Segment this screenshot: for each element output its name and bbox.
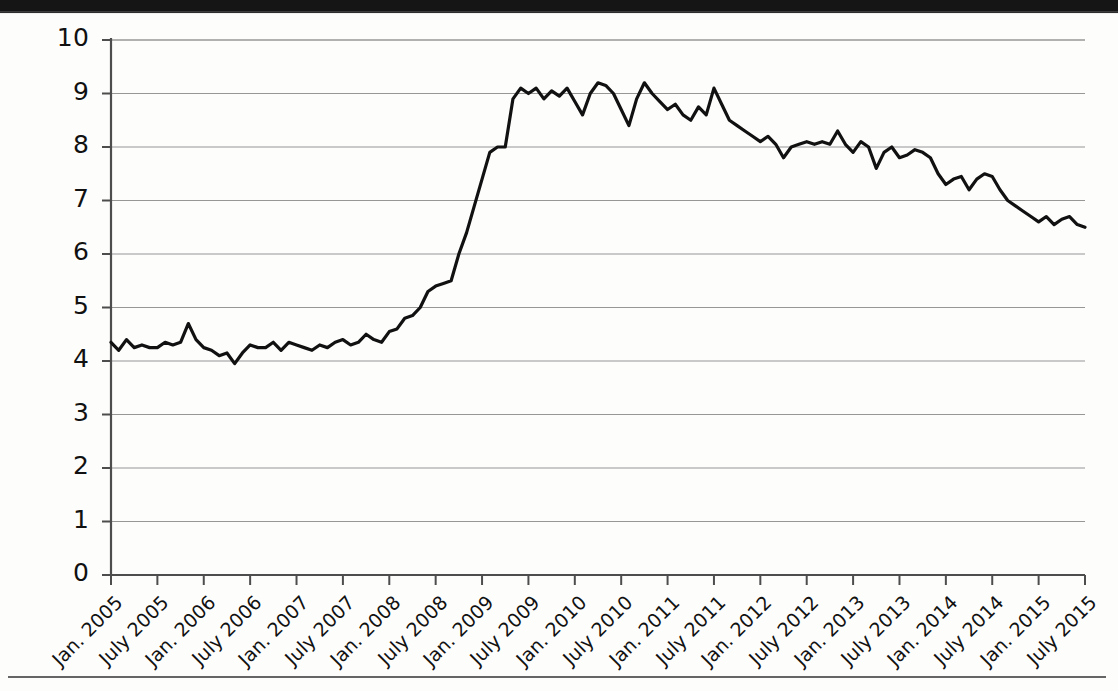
y-tick-label: 8 xyxy=(49,130,89,159)
data-line-unemployment-rate xyxy=(111,83,1085,364)
line-chart: 012345678910 Jan. 2005July 2005Jan. 2006… xyxy=(0,0,1118,691)
y-tick-label: 7 xyxy=(49,184,89,213)
y-tick-label: 10 xyxy=(49,23,89,52)
y-tick-label: 9 xyxy=(49,77,89,106)
y-tick-label: 0 xyxy=(49,558,89,587)
y-tick-label: 6 xyxy=(49,237,89,266)
y-tick-label: 1 xyxy=(49,505,89,534)
y-tick-label: 3 xyxy=(49,398,89,427)
gridline-group xyxy=(111,40,1085,522)
y-tick-label: 2 xyxy=(49,451,89,480)
page-footer-rule xyxy=(8,676,1106,678)
axis-group xyxy=(111,38,1085,575)
y-tick-label: 4 xyxy=(49,344,89,373)
y-tick-label: 5 xyxy=(49,291,89,320)
y-tick-group xyxy=(102,40,111,575)
scanned-page: 012345678910 Jan. 2005July 2005Jan. 2006… xyxy=(0,0,1118,691)
x-tick-group xyxy=(111,575,1085,585)
chart-canvas xyxy=(0,0,1118,691)
